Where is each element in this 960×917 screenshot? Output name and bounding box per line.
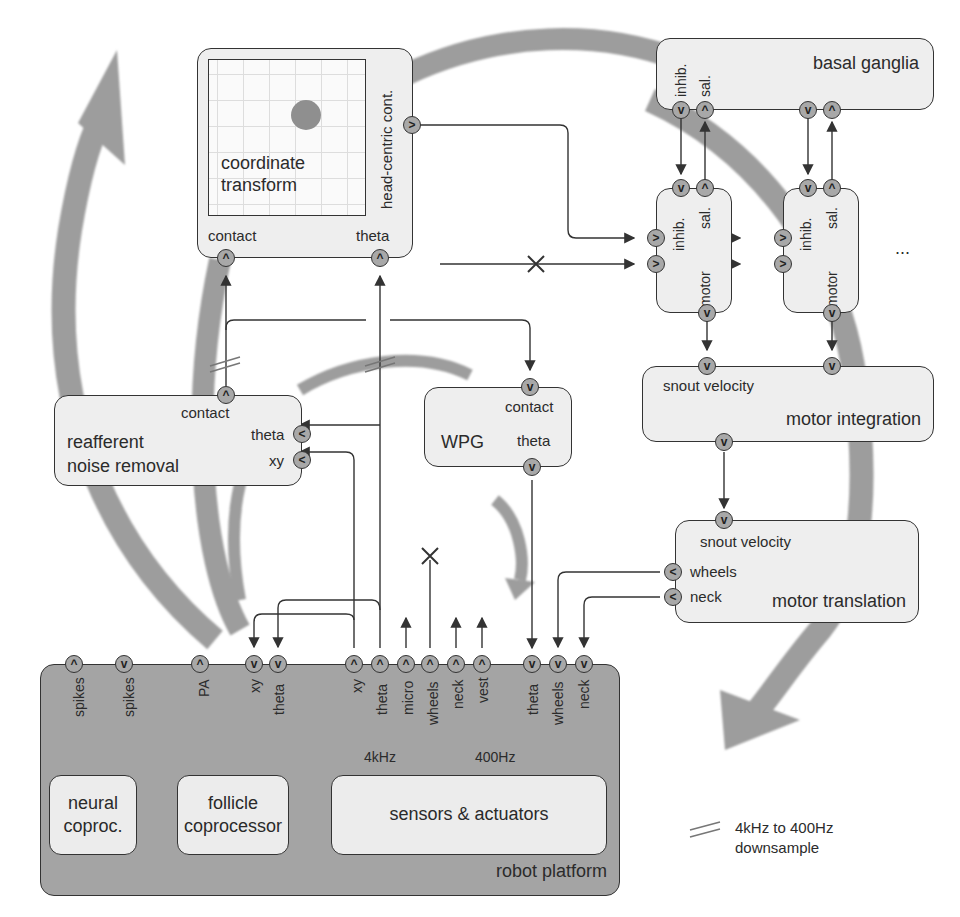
port-platform-theta-in[interactable]: v [269,655,287,673]
left-outer-flow-arrow [64,120,215,640]
port-platform-xy-in[interactable]: v [245,655,263,673]
coordinate-transform-module: coordinate transform contact theta head-… [197,48,413,258]
reafferent-title: reafferent noise removal [67,430,179,478]
label-inhib: inhib. [798,218,814,251]
robot-platform-title: robot platform [496,861,607,882]
follicle-coprocessor: folliclecoprocessor [177,775,289,855]
port-ch1-in-2[interactable]: > [647,255,665,273]
basal-ganglia-title: basal ganglia [813,53,919,74]
label-motor: motor [824,271,840,307]
mid-arc-flow [300,361,470,390]
port-label-spikes-out: spikes [71,677,87,717]
port-ch1-inhib[interactable]: v [672,179,690,197]
contact-point-marker [291,100,321,130]
port-platform-spikes-in[interactable]: v [115,655,133,673]
port-platform-xy-out[interactable]: ^ [345,655,363,673]
motor-translation-module: snout velocity wheels neck motor transla… [675,520,919,623]
port-ch1-sal[interactable]: ^ [696,179,714,197]
sensors-actuators: sensors & actuators [331,775,607,855]
motor-integration-title: motor integration [786,409,921,430]
port-ch2-in-2[interactable]: > [774,255,792,273]
top-arc-flow [405,39,680,75]
motor-integration-module: snout velocity motor integration [642,366,934,442]
port-mt-snout-in[interactable]: v [715,511,733,529]
action-channel-1: inhib. sal. motor [656,188,732,313]
more-channels-ellipsis: ... [895,238,910,259]
port-ch2-inhib[interactable]: v [799,179,817,197]
port-mi-out[interactable]: v [715,433,733,451]
port-platform-vest[interactable]: ^ [473,655,491,673]
port-label-theta: theta [517,432,550,449]
reafferent-noise-removal-module: contact theta xy reafferent noise remova… [54,395,302,486]
port-label-vest: vest [475,677,491,703]
port-platform-spikes-out[interactable]: ^ [65,655,83,673]
port-ch1-in-1[interactable]: > [647,229,665,247]
port-bg-sal-1[interactable]: ^ [696,101,714,119]
port-label-neck: neck [690,588,722,605]
port-platform-micro[interactable]: ^ [397,655,415,673]
port-reafferent-xy-in[interactable]: < [293,451,311,469]
port-label-neck-in: neck [576,679,592,709]
port-reafferent-theta-in[interactable]: < [293,425,311,443]
port-platform-theta-in-2[interactable]: v [523,655,541,673]
coordinate-grid-panel: coordinate transform [208,59,366,216]
port-platform-wheels-out[interactable]: ^ [421,655,439,673]
port-head-centric-out[interactable]: > [403,116,421,134]
port-ch1-motor[interactable]: v [698,304,716,322]
port-label-spikes-in: spikes [121,677,137,717]
port-label-theta: theta [356,227,389,244]
port-label-snout-velocity: snout velocity [700,533,791,550]
port-label-theta: theta [251,426,284,443]
port-label-theta-in: theta [271,684,287,715]
wpg-title: WPG [441,432,484,453]
robot-platform: spikes spikes PA xy theta xy theta micro… [40,664,620,896]
port-label-xy-out: xy [349,679,365,693]
rate-label-400hz: 400Hz [475,749,515,765]
port-ch2-motor[interactable]: v [823,304,841,322]
port-mi-in-2[interactable]: v [823,357,841,375]
port-platform-neck-in[interactable]: v [575,655,593,673]
port-mt-neck-out[interactable]: < [664,588,682,606]
motor-translation-title: motor translation [772,591,906,612]
port-bg-sal-2[interactable]: ^ [823,101,841,119]
port-reafferent-contact-out[interactable]: ^ [217,386,235,404]
port-label-contact: contact [181,404,229,421]
port-label-wheels-out: wheels [425,681,441,725]
port-label-wheels: wheels [690,563,737,580]
port-theta-in[interactable]: ^ [371,249,389,267]
legend-downsample-icon [690,822,720,837]
port-label-inhib: inhib. [673,64,689,97]
port-mt-wheels-out[interactable]: < [664,563,682,581]
port-label-snout-velocity: snout velocity [663,377,754,394]
basal-ganglia-module: basal ganglia inhib. sal. [656,38,934,110]
port-platform-theta-out[interactable]: ^ [371,655,389,673]
port-label-head-centric: head-centric cont. [378,90,395,209]
port-label-neck-out: neck [450,679,466,709]
port-mi-in-1[interactable]: v [698,357,716,375]
port-label-xy-in: xy [247,679,263,693]
port-wpg-contact-in[interactable]: v [521,378,539,396]
port-label-wheels-in: wheels [550,681,566,725]
port-ch2-in-1[interactable]: > [774,229,792,247]
coordinate-transform-title: coordinate transform [221,152,305,196]
port-platform-neck-out[interactable]: ^ [447,655,465,673]
wpg-module: contact theta WPG [424,387,572,467]
port-bg-inhib-1[interactable]: v [672,101,690,119]
port-contact-in[interactable]: ^ [217,249,235,267]
port-label-sal: sal. [697,75,713,97]
port-label-contact: contact [505,398,553,415]
action-channel-2: inhib. sal. motor [783,188,859,313]
label-inhib: inhib. [671,218,687,251]
port-wpg-theta-out[interactable]: v [523,458,541,476]
label-sal: sal. [824,207,840,229]
port-label-xy: xy [269,452,284,469]
port-platform-pa[interactable]: ^ [191,655,209,673]
port-label-micro: micro [400,681,416,715]
port-label-theta-in-2: theta [525,684,541,715]
wpg-down-flow [495,500,522,580]
port-ch2-sal[interactable]: ^ [823,179,841,197]
neural-coprocessor: neuralcoproc. [49,775,137,855]
port-platform-wheels-in[interactable]: v [549,655,567,673]
port-label-theta-out: theta [374,684,390,715]
port-bg-inhib-2[interactable]: v [799,101,817,119]
